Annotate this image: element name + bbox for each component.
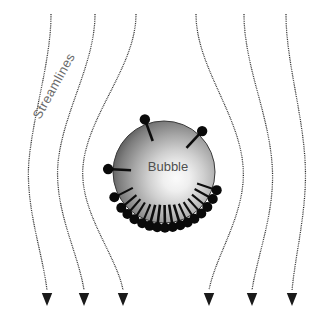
- figure-canvas: Bubble Streamlines: [0, 0, 335, 326]
- surfactant-3-tail-overlay: [112, 169, 131, 170]
- bubble-streamlines-diagram: Bubble Streamlines: [0, 0, 335, 326]
- surfactant-18-head: [208, 194, 218, 204]
- surfactant-19-head: [212, 185, 222, 195]
- surfactant-4-head: [109, 192, 119, 202]
- surfactant-1-head: [140, 114, 150, 124]
- surfactant-3-head: [103, 164, 113, 174]
- bubble-label: Bubble: [148, 159, 188, 174]
- surfactant-2-head: [197, 126, 207, 136]
